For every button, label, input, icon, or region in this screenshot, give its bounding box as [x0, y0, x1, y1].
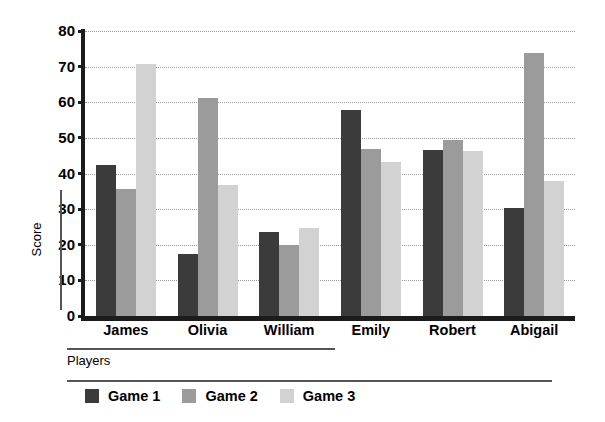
bar [443, 140, 463, 316]
bar [504, 208, 524, 316]
x-axis-category-label: Olivia [167, 322, 249, 338]
y-axis-tick-mark [78, 243, 85, 246]
legend-label: Game 2 [205, 388, 257, 404]
legend-divider [67, 380, 552, 382]
bar [341, 110, 361, 316]
x-axis-line [81, 316, 575, 321]
y-axis-tick-mark [78, 30, 85, 33]
bar [218, 185, 238, 316]
x-axis-title: Players [67, 353, 110, 368]
x-axis-title-rule [67, 348, 335, 350]
y-axis-tick-mark [78, 279, 85, 282]
y-axis-tick-label: 40 [58, 164, 75, 183]
y-axis-tick-label: 70 [58, 57, 75, 76]
x-axis-title-group: Players [67, 348, 337, 374]
x-axis-category-label: Abigail [493, 322, 575, 338]
bar [381, 162, 401, 316]
y-axis-title-rule [60, 190, 62, 310]
legend: Game 1Game 2Game 3 [85, 388, 355, 404]
legend-item[interactable]: Game 2 [182, 388, 257, 404]
legend-item[interactable]: Game 1 [85, 388, 160, 404]
bar [259, 232, 279, 316]
bar [136, 64, 156, 316]
bar [361, 149, 381, 316]
x-axis-category-label: William [248, 322, 330, 338]
y-axis-tick-mark [78, 208, 85, 211]
bars-layer [85, 31, 575, 316]
bar [178, 254, 198, 316]
x-axis-labels: JamesOliviaWilliamEmilyRobertAbigail [85, 322, 575, 346]
y-axis-tick-label: 60 [58, 92, 75, 111]
x-axis-category-label: James [85, 322, 167, 338]
bar [279, 245, 299, 316]
bar [198, 98, 218, 316]
legend-swatch-icon [85, 389, 99, 403]
bar [524, 53, 544, 316]
y-axis-tick-label: 50 [58, 128, 75, 147]
y-axis-title-group: Score [18, 190, 78, 310]
bar [423, 150, 443, 316]
x-axis-category-label: Emily [330, 322, 412, 338]
legend-swatch-icon [182, 389, 196, 403]
bar [544, 181, 564, 316]
x-axis-category-label: Robert [412, 322, 494, 338]
bar [463, 151, 483, 316]
plot-area [85, 31, 575, 316]
bar [96, 165, 116, 316]
legend-swatch-icon [280, 389, 294, 403]
y-axis-tick-mark [78, 136, 85, 139]
y-axis-tick-mark [78, 101, 85, 104]
y-axis-tick-mark [78, 172, 85, 175]
bar [299, 228, 319, 316]
y-axis-title: Score [29, 210, 44, 270]
legend-label: Game 1 [108, 388, 160, 404]
legend-item[interactable]: Game 3 [280, 388, 355, 404]
y-axis-tick-label: 80 [58, 21, 75, 40]
bar [116, 189, 136, 316]
legend-label: Game 3 [303, 388, 355, 404]
bar-chart: 01020304050607080 JamesOliviaWilliamEmil… [0, 0, 605, 422]
y-axis-tick-mark [78, 65, 85, 68]
